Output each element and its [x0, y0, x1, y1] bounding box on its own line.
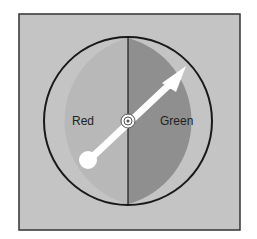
label-green: Green	[160, 114, 193, 128]
spinner-diagram: Red Green	[0, 0, 257, 239]
label-red: Red	[72, 114, 94, 128]
